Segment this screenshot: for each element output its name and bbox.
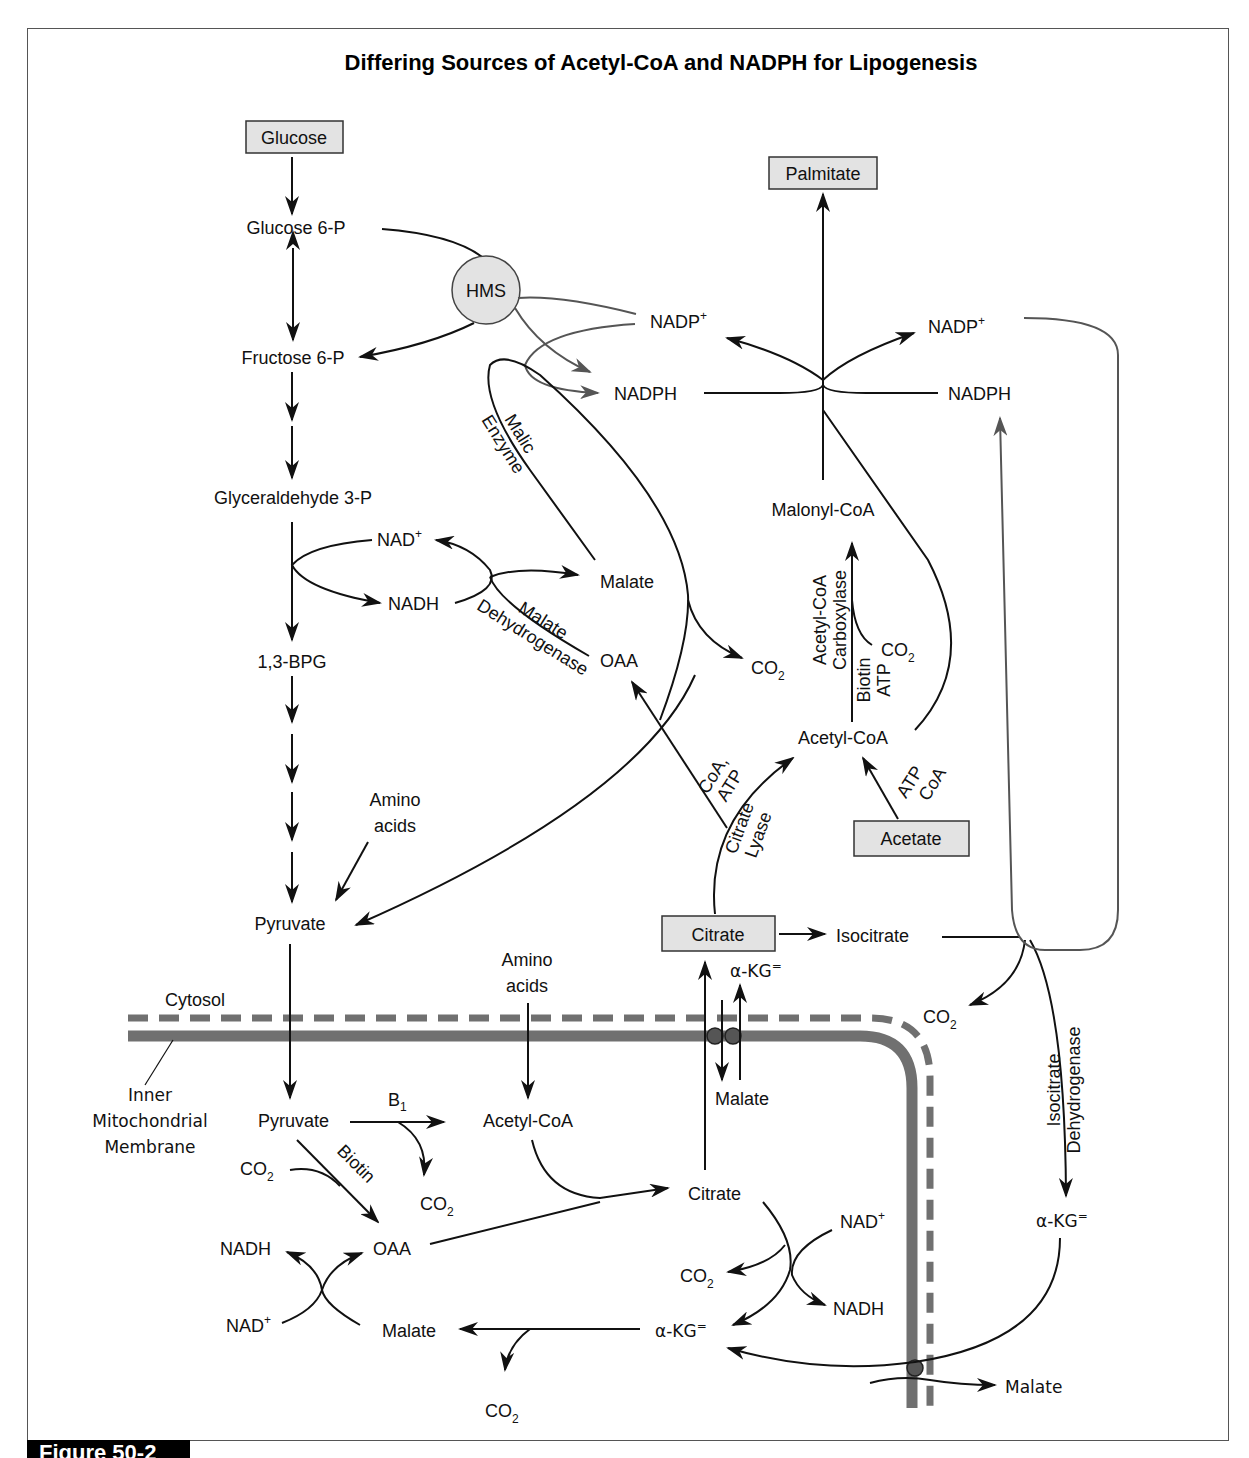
transporter-icon [707, 1028, 723, 1044]
pyruvate-mito: Pyruvate [258, 1111, 329, 1131]
bpg: 1,3-BPG [257, 652, 326, 672]
co2-idh: CO2 [923, 1007, 957, 1032]
acc-cofactor-biotin: Biotin [854, 657, 874, 702]
hms-label: HMS [466, 281, 506, 301]
acc-cofactor-atp: ATP [874, 663, 894, 697]
glucose-label: Glucose [261, 128, 327, 148]
acc-label-line1: Acetyl-CoA [810, 575, 830, 665]
malate-transport: Malate [715, 1089, 769, 1109]
palmitate-label: Palmitate [785, 164, 860, 184]
membrane-label-line3: Membrane [104, 1137, 195, 1157]
diagram-title: Differing Sources of Acetyl-CoA and NADP… [345, 50, 978, 75]
isocitrate: Isocitrate [836, 926, 909, 946]
acc-label-line2: Carboxylase [830, 570, 850, 670]
acetyl-coa-mito: Acetyl-CoA [483, 1111, 573, 1131]
nadh-cyto: NADH [388, 594, 439, 614]
nadp-plus-right: NADP+ [928, 314, 985, 337]
pyruvate-cytosol: Pyruvate [254, 914, 325, 934]
oaa-mito: OAA [373, 1239, 411, 1259]
idh-label-line2: Dehydrogenase [1064, 1026, 1084, 1153]
citrate-mito: Citrate [688, 1184, 741, 1204]
co2-akg: CO2 [680, 1266, 714, 1291]
nad-plus-mito-right: NAD+ [840, 1209, 885, 1232]
amino-acids-line1: Amino [369, 790, 420, 810]
citrate-label-cyto: Citrate [691, 925, 744, 945]
nadp-plus-left: NADP+ [650, 309, 707, 332]
membrane-label-line1: Inner [128, 1085, 172, 1105]
nadph-right: NADPH [948, 384, 1011, 404]
akg-cyto: α-KG= [1036, 1209, 1088, 1231]
cytosol-label: Cytosol [165, 990, 225, 1010]
b1-cofactor: B1 [388, 1090, 407, 1114]
fructose-6p: Fructose 6-P [241, 348, 344, 368]
amino-acids-line2: acids [374, 816, 416, 836]
amino-acids-mito-line1: Amino [501, 950, 552, 970]
nadh-mito-right: NADH [833, 1299, 884, 1319]
biotin-cofactor: Biotin [333, 1141, 379, 1187]
membrane-label-line2: Mitochondrial [92, 1111, 207, 1131]
acetyl-coa-cyto: Acetyl-CoA [798, 728, 888, 748]
malate-mito: Malate [382, 1321, 436, 1341]
figure-label-tab: Figure 50-2 [27, 1440, 190, 1458]
nad-plus-cyto: NAD+ [377, 527, 422, 550]
glucose-6p: Glucose 6-P [246, 218, 345, 238]
amino-acids-mito-line2: acids [506, 976, 548, 996]
idh-label-line1: Isocitrate [1044, 1053, 1064, 1126]
transporter-icon [725, 1028, 741, 1044]
nad-plus-mito-left: NAD+ [226, 1313, 271, 1336]
figure-label: Figure 50-2 [39, 1442, 156, 1458]
co2-acc: CO2 [881, 640, 915, 665]
akg-transport: α-KG= [730, 959, 782, 981]
glyceraldehyde-3p: Glyceraldehyde 3-P [214, 488, 372, 508]
nadh-mito-left: NADH [220, 1239, 271, 1259]
co2-malic: CO2 [751, 658, 785, 683]
malate-out: Malate [1005, 1377, 1062, 1397]
acetate-label: Acetate [880, 829, 941, 849]
akg-mito: α-KG= [655, 1319, 707, 1341]
malonyl-coa: Malonyl-CoA [771, 500, 874, 520]
lipogenesis-diagram: Differing Sources of Acetyl-CoA and NADP… [0, 0, 1249, 1458]
co2-pdh: CO2 [420, 1194, 454, 1219]
co2-malate: CO2 [485, 1401, 519, 1426]
co2-pc-input: CO2 [240, 1159, 274, 1184]
oaa-cyto: OAA [600, 651, 638, 671]
malate-cyto: Malate [600, 572, 654, 592]
nadph-left: NADPH [614, 384, 677, 404]
